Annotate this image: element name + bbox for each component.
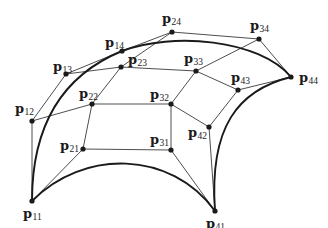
control-point-p32	[168, 101, 173, 106]
label-p32: p32	[150, 87, 169, 103]
label-p33: p33	[184, 51, 203, 67]
label-subscript: 11	[33, 212, 42, 222]
label-base: p	[150, 132, 159, 147]
label-p21: p21	[60, 138, 79, 154]
label-subscript: 43	[241, 76, 251, 86]
control-point-p42	[206, 124, 211, 129]
control-point-p21	[80, 146, 85, 151]
control-point-p22	[89, 101, 94, 106]
net-line-p14-p24-p34-p44	[122, 32, 291, 77]
label-base: p	[23, 206, 32, 221]
control-point-p34	[256, 36, 261, 41]
label-base: p	[299, 70, 308, 85]
label-p12: p12	[15, 101, 34, 117]
control-point-p41	[212, 208, 217, 213]
label-base: p	[105, 35, 114, 50]
label-p14: p14	[105, 35, 124, 51]
label-base: p	[15, 101, 24, 116]
label-p24: p24	[162, 11, 181, 27]
label-subscript: 14	[115, 41, 125, 51]
label-p41: p41	[206, 216, 225, 228]
label-p23: p23	[128, 52, 147, 68]
label-subscript: 24	[172, 17, 182, 27]
label-base: p	[231, 70, 240, 85]
left-boundary-curve	[32, 51, 122, 201]
label-subscript: 41	[216, 222, 226, 228]
label-p42: p42	[188, 125, 207, 141]
label-subscript: 33	[194, 57, 204, 67]
label-p43: p43	[231, 70, 250, 86]
label-base: p	[184, 51, 193, 66]
label-base: p	[206, 216, 215, 228]
label-base: p	[188, 125, 197, 140]
diagram-canvas: p11p12p13p14p21p22p23p24p31p32p33p34p41p…	[0, 0, 328, 228]
bezier-patch-diagram: p11p12p13p14p21p22p23p24p31p32p33p34p41p…	[0, 0, 328, 228]
label-base: p	[53, 59, 62, 74]
label-subscript: 34	[260, 24, 270, 34]
label-subscript: 31	[160, 138, 170, 148]
label-subscript: 32	[160, 93, 170, 103]
label-base: p	[150, 87, 159, 102]
label-subscript: 42	[198, 131, 208, 141]
label-subscript: 12	[25, 107, 35, 117]
label-subscript: 13	[63, 65, 73, 75]
label-p11: p11	[23, 206, 42, 222]
control-point-p24	[169, 29, 174, 34]
label-base: p	[60, 138, 69, 153]
control-point-p12	[29, 118, 34, 123]
label-p44: p44	[299, 70, 318, 86]
control-point-p31	[168, 147, 173, 152]
control-point-p11	[29, 198, 34, 203]
label-base: p	[79, 86, 88, 101]
control-net	[32, 32, 291, 211]
label-p13: p13	[53, 59, 72, 75]
label-p22: p22	[79, 86, 98, 102]
net-line-p12-p22-p32-p42	[32, 104, 209, 127]
control-point-p23	[118, 64, 123, 69]
label-p34: p34	[250, 18, 269, 34]
label-base: p	[250, 18, 259, 33]
label-p31: p31	[150, 132, 169, 148]
label-subscript: 21	[70, 144, 80, 154]
bottom-boundary-curve	[32, 164, 215, 211]
point-labels: p11p12p13p14p21p22p23p24p31p32p33p34p41p…	[15, 11, 318, 228]
label-subscript: 22	[89, 92, 99, 102]
control-point-p33	[193, 68, 198, 73]
label-base: p	[162, 11, 171, 26]
control-points	[29, 29, 293, 213]
label-base: p	[128, 52, 137, 67]
label-subscript: 23	[138, 58, 148, 68]
label-subscript: 44	[309, 76, 319, 86]
right-boundary-curve	[214, 77, 291, 211]
control-point-p43	[235, 87, 240, 92]
control-point-p44	[288, 74, 293, 79]
